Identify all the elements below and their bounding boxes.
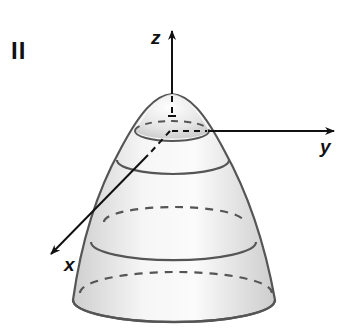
paraboloid-svg — [0, 0, 350, 336]
y-axis-label: y — [320, 136, 331, 158]
paraboloid-diagram: II z y x — [0, 0, 350, 336]
z-axis-label: z — [151, 27, 161, 49]
x-axis-label: x — [64, 254, 75, 276]
panel-label: II — [11, 37, 26, 65]
